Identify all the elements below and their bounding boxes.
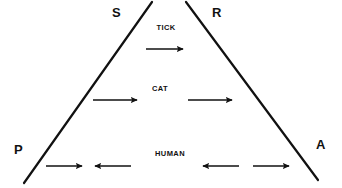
- corner-label-p: P: [14, 143, 23, 156]
- diagram-canvas: SRPA TICKCATHUMAN: [0, 0, 342, 188]
- tier-label-human: HUMAN: [155, 150, 185, 158]
- corner-label-s: S: [112, 6, 121, 19]
- tier-label-cat: CAT: [152, 85, 168, 93]
- triangle-right-leg: [186, 2, 318, 180]
- triangle-left-leg: [24, 2, 152, 183]
- tier-label-tick: TICK: [156, 24, 175, 32]
- corner-label-a: A: [316, 138, 325, 151]
- corner-label-r: R: [212, 6, 221, 19]
